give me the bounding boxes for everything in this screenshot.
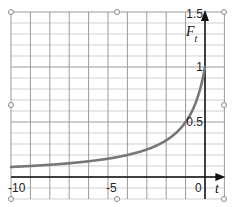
resize-handle[interactable]: [115, 10, 120, 15]
x-tick-label: -10: [8, 181, 26, 195]
y-tick-label: 1: [196, 60, 203, 74]
y-tick-label: 1.5: [186, 7, 203, 21]
y-axis-label: Ft: [185, 24, 198, 44]
y-tick-label: 0.5: [186, 115, 203, 129]
resize-handle[interactable]: [222, 197, 227, 202]
resize-handle[interactable]: [9, 103, 14, 108]
resize-handle[interactable]: [222, 103, 227, 108]
resize-handle[interactable]: [222, 10, 227, 15]
resize-handle[interactable]: [9, 10, 14, 15]
resize-handle[interactable]: [9, 197, 14, 202]
resize-handle[interactable]: [115, 197, 120, 202]
x-tick-label: -5: [106, 181, 117, 195]
chart: -10-500.511.5 Ft t: [0, 0, 234, 207]
x-tick-label: 0: [195, 181, 202, 195]
grid: [11, 12, 224, 199]
